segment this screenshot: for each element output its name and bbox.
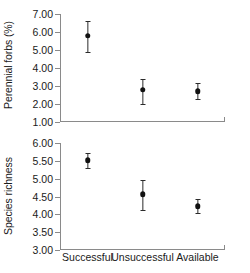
- data-point-marker: [195, 204, 201, 210]
- y-tick-label-plot-top: 7.00: [33, 8, 53, 20]
- data-point-marker: [140, 87, 146, 93]
- x-axis-label-successful: Successful: [62, 251, 113, 263]
- error-bar-cap: [85, 168, 90, 169]
- y-axis-label-bottom: Species richness: [2, 139, 14, 253]
- error-bar-cap: [85, 21, 90, 22]
- x-axis-end-tick-right-bottom: [224, 245, 225, 250]
- x-axis-end-tick-left-bottom: [60, 245, 61, 250]
- y-tick-plot-bottom: [55, 161, 60, 162]
- y-tick-plot-top: [55, 68, 60, 69]
- error-bar-cap: [195, 99, 200, 100]
- y-axis-label-top: Perennial forbs (%): [2, 4, 14, 126]
- data-point-marker: [195, 89, 201, 95]
- x-axis-end-tick-left-top: [60, 117, 61, 122]
- data-point-marker: [85, 157, 91, 163]
- y-tick-label-plot-top: 4.00: [33, 62, 53, 74]
- y-tick-plot-bottom: [55, 197, 60, 198]
- y-tick-label-plot-bottom: 4.50: [33, 191, 53, 203]
- data-point-marker: [85, 33, 91, 39]
- y-tick-label-plot-top: 2.00: [33, 98, 53, 110]
- error-bar-cap: [195, 213, 200, 214]
- y-axis-line-top: [60, 14, 61, 122]
- x-axis-line-top: [60, 121, 225, 122]
- plot-area-bottom: 3.003.504.004.505.005.506.00: [60, 143, 225, 250]
- y-tick-plot-top: [55, 86, 60, 87]
- data-point-marker: [140, 191, 146, 197]
- figure: Perennial forbs (%) 1.002.003.004.005.00…: [0, 0, 250, 273]
- y-tick-label-plot-top: 5.00: [33, 44, 53, 56]
- y-tick-plot-bottom: [55, 179, 60, 180]
- error-bar-cap: [140, 180, 145, 181]
- y-tick-label-plot-bottom: 6.00: [33, 137, 53, 149]
- y-tick-plot-bottom: [55, 143, 60, 144]
- error-bar-cap: [140, 79, 145, 80]
- error-bar-cap: [195, 83, 200, 84]
- x-axis-label-available: Available: [176, 251, 218, 263]
- y-tick-plot-bottom: [55, 232, 60, 233]
- y-tick-label-plot-top: 3.00: [33, 80, 53, 92]
- y-tick-label-plot-bottom: 3.00: [33, 244, 53, 256]
- error-bar-cap: [195, 199, 200, 200]
- y-tick-plot-top: [55, 14, 60, 15]
- x-axis-line-bottom: [60, 249, 225, 250]
- error-bar-cap: [85, 52, 90, 53]
- y-tick-label-plot-top: 1.00: [33, 116, 53, 128]
- x-axis-label-unsuccessful: Unsuccessful: [111, 251, 173, 263]
- y-tick-plot-top: [55, 50, 60, 51]
- y-tick-label-plot-bottom: 5.50: [33, 155, 53, 167]
- y-tick-label-plot-bottom: 4.00: [33, 208, 53, 220]
- y-tick-label-plot-bottom: 5.00: [33, 173, 53, 185]
- y-axis-line-bottom: [60, 143, 61, 250]
- y-tick-plot-bottom: [55, 214, 60, 215]
- x-axis-category-labels: SuccessfulUnsuccessfulAvailable: [60, 251, 225, 267]
- x-axis-end-tick-right-top: [224, 117, 225, 122]
- plot-area-top: 1.002.003.004.005.006.007.00: [60, 14, 225, 122]
- y-tick-plot-top: [55, 104, 60, 105]
- error-bar-cap: [140, 104, 145, 105]
- panel-perennial-forbs: Perennial forbs (%) 1.002.003.004.005.00…: [0, 0, 250, 133]
- y-tick-label-plot-top: 6.00: [33, 26, 53, 38]
- error-bar-cap: [85, 153, 90, 154]
- y-tick-label-plot-bottom: 3.50: [33, 226, 53, 238]
- error-bar-cap: [140, 210, 145, 211]
- y-tick-plot-top: [55, 32, 60, 33]
- y-tick-plot-top: [55, 122, 60, 123]
